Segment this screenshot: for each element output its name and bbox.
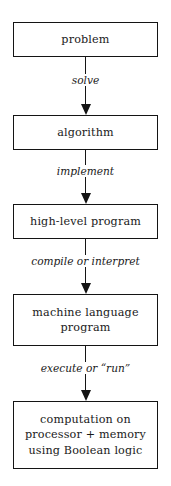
node-computation: computation on processor + memory using …: [13, 401, 158, 469]
node-machine-language-program-line-2: program: [60, 320, 110, 336]
node-algorithm-line-1: algorithm: [57, 125, 114, 141]
node-computation-line-3: using Boolean logic: [29, 443, 143, 459]
arrowhead-icon: [81, 104, 91, 115]
flowchart-diagram: problem solve algorithm implement high-l…: [0, 0, 171, 486]
arrowhead-icon: [81, 390, 91, 401]
arrowhead-icon: [81, 283, 91, 294]
node-computation-line-1: computation on: [40, 412, 131, 428]
node-problem: problem: [13, 22, 158, 57]
arrowhead-icon: [81, 193, 91, 204]
node-problem-line-1: problem: [61, 32, 109, 48]
node-machine-language-program-line-1: machine language: [32, 305, 138, 321]
edge-execute-or-run-label: execute or “run”: [40, 362, 132, 374]
node-computation-line-2: processor + memory: [25, 427, 146, 443]
node-algorithm: algorithm: [13, 115, 158, 150]
edge-implement-label: implement: [56, 165, 115, 177]
node-high-level-program-line-1: high-level program: [30, 214, 141, 230]
edge-solve: solve: [13, 57, 158, 115]
edge-implement: implement: [13, 150, 158, 204]
node-machine-language-program: machine language program: [13, 294, 158, 346]
edge-execute-or-run: execute or “run”: [13, 346, 158, 401]
edge-solve-label: solve: [71, 74, 100, 86]
node-high-level-program: high-level program: [13, 204, 158, 239]
edge-compile-or-interpret: compile or interpret: [13, 239, 158, 294]
edge-compile-or-interpret-label: compile or interpret: [30, 255, 141, 267]
